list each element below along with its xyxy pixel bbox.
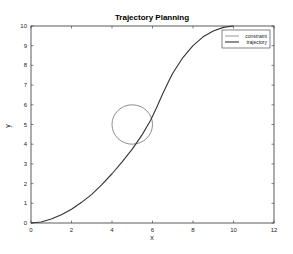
chart-title: Trajectory Planning (115, 13, 189, 22)
x-tick-label: 0 (29, 227, 33, 233)
y-tick-label: 8 (24, 62, 28, 68)
y-tick-label: 0 (24, 220, 28, 226)
y-tick-label: 3 (24, 161, 28, 167)
axes: 024681012012345678910 (20, 23, 278, 233)
legend-label-trajectory: trajectory (246, 39, 267, 45)
x-tick-label: 4 (110, 227, 114, 233)
chart: Trajectory Planning 02468101201234567891… (0, 0, 293, 254)
x-tick-label: 2 (70, 227, 74, 233)
trajectory-line (31, 26, 234, 223)
x-axis-label: x (150, 234, 154, 241)
y-tick-label: 5 (24, 122, 28, 128)
y-tick-label: 4 (24, 141, 28, 147)
x-tick-label: 8 (191, 227, 195, 233)
y-tick-label: 1 (24, 200, 28, 206)
y-tick-label: 7 (24, 82, 28, 88)
legend: constrainttrajectory (222, 30, 270, 48)
y-axis-label: y (4, 124, 12, 128)
plot-area (31, 26, 234, 223)
y-tick-label: 2 (24, 181, 28, 187)
y-tick-label: 9 (24, 43, 28, 49)
x-tick-label: 10 (230, 227, 237, 233)
y-tick-label: 6 (24, 102, 28, 108)
x-tick-label: 12 (271, 227, 278, 233)
x-tick-label: 6 (151, 227, 155, 233)
constraint-circle (112, 105, 153, 144)
y-tick-label: 10 (20, 23, 27, 29)
